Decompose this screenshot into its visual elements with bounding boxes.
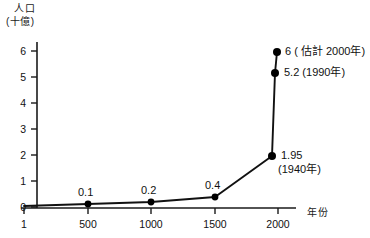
y-tick-label-0: 0 bbox=[12, 201, 26, 213]
annotation-6-estimate: 6 ( 估計 2000年) bbox=[285, 45, 365, 58]
x-axis-title: 年份 bbox=[307, 207, 328, 219]
y-tick-label-4: 4 bbox=[12, 97, 26, 109]
x-tick-label-1: 1 bbox=[4, 218, 44, 230]
chart-plot-area bbox=[0, 0, 370, 238]
y-tick-label-3: 3 bbox=[12, 123, 26, 135]
population-growth-chart: 人口 (十億) 年份 6 5 4 3 2 1 0 1 500 1000 1500… bbox=[0, 0, 370, 238]
x-axis-ticks bbox=[24, 208, 278, 214]
y-axis-title-line2: (十億) bbox=[6, 16, 35, 28]
y-tick-label-6: 6 bbox=[12, 45, 26, 57]
y-tick-label-1: 1 bbox=[12, 175, 26, 187]
data-point-1000 bbox=[148, 199, 155, 206]
data-point-1990 bbox=[271, 69, 279, 77]
annotation-0-2: 0.2 bbox=[141, 184, 156, 197]
y-tick-label-2: 2 bbox=[12, 149, 26, 161]
y-axis-title-line1: 人口 bbox=[14, 3, 35, 15]
y-axis-ticks bbox=[31, 51, 37, 207]
y-tick-label-5: 5 bbox=[12, 71, 26, 83]
annotation-0-1: 0.1 bbox=[78, 186, 93, 199]
annotation-1-95: 1.95 bbox=[281, 149, 302, 162]
x-tick-label-500: 500 bbox=[68, 218, 108, 230]
annotation-1940-year: (1940年) bbox=[278, 163, 321, 176]
x-tick-label-1000: 1000 bbox=[131, 218, 171, 230]
annotation-0-4: 0.4 bbox=[205, 179, 220, 192]
x-tick-label-2000: 2000 bbox=[258, 218, 298, 230]
data-point-markers bbox=[85, 48, 281, 207]
x-tick-label-1500: 1500 bbox=[195, 218, 235, 230]
data-point-1940 bbox=[268, 152, 276, 160]
data-point-2000 bbox=[273, 48, 281, 56]
annotation-5-2: 5.2 (1990年) bbox=[284, 66, 345, 79]
population-line-series bbox=[24, 52, 277, 206]
data-point-500 bbox=[85, 201, 92, 208]
data-point-1500 bbox=[212, 194, 219, 201]
